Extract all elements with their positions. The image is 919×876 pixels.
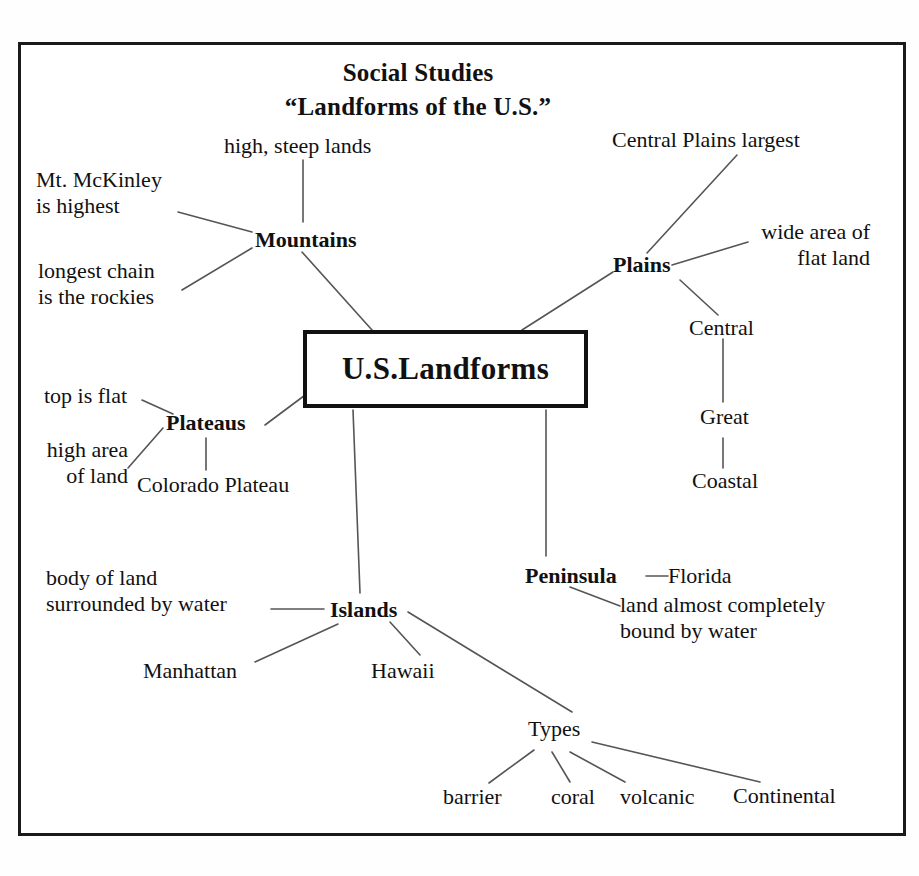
concept-map-page: Social Studies “Landforms of the U.S.” U… bbox=[0, 0, 919, 876]
node-plains-detail-1[interactable]: wide area of flat land bbox=[698, 219, 870, 271]
node-peninsula[interactable]: Peninsula bbox=[525, 563, 617, 589]
node-types-item-3[interactable]: Continental bbox=[733, 783, 836, 809]
node-plains-detail-0[interactable]: Central Plains largest bbox=[612, 127, 800, 153]
node-plains-chain-0[interactable]: Central bbox=[689, 315, 754, 341]
node-plateaus-detail-1[interactable]: high area of land bbox=[20, 437, 128, 489]
diagram-border bbox=[18, 42, 906, 836]
node-types-item-2[interactable]: volcanic bbox=[620, 784, 695, 810]
node-peninsula-detail-1[interactable]: land almost completely bound by water bbox=[620, 592, 825, 644]
node-islands-detail-0[interactable]: body of land surrounded by water bbox=[46, 565, 227, 617]
node-plains[interactable]: Plains bbox=[613, 252, 670, 278]
center-node-label: U.S.Landforms bbox=[342, 351, 549, 387]
node-plateaus-detail-0[interactable]: top is flat bbox=[44, 383, 127, 409]
diagram-title-line1: Social Studies bbox=[303, 58, 533, 88]
node-plains-chain-1[interactable]: Great bbox=[700, 404, 749, 430]
node-islands[interactable]: Islands bbox=[330, 597, 397, 623]
node-mountains-detail-2[interactable]: longest chain is the rockies bbox=[38, 258, 155, 310]
node-islands-detail-1[interactable]: Manhattan bbox=[143, 658, 237, 684]
node-plateaus-detail-2[interactable]: Colorado Plateau bbox=[137, 472, 289, 498]
diagram-title-line2: “Landforms of the U.S.” bbox=[278, 92, 558, 122]
node-plains-chain-2[interactable]: Coastal bbox=[692, 468, 758, 494]
node-plateaus[interactable]: Plateaus bbox=[166, 410, 245, 436]
node-mountains-detail-0[interactable]: high, steep lands bbox=[224, 133, 371, 159]
node-peninsula-detail-0[interactable]: Florida bbox=[668, 563, 732, 589]
center-node-box[interactable]: U.S.Landforms bbox=[303, 330, 588, 408]
node-types-item-0[interactable]: barrier bbox=[443, 784, 502, 810]
node-types[interactable]: Types bbox=[528, 716, 580, 742]
node-mountains[interactable]: Mountains bbox=[255, 227, 356, 253]
node-types-item-1[interactable]: coral bbox=[551, 784, 595, 810]
node-islands-detail-2[interactable]: Hawaii bbox=[371, 658, 435, 684]
node-mountains-detail-1[interactable]: Mt. McKinley is highest bbox=[36, 167, 162, 219]
